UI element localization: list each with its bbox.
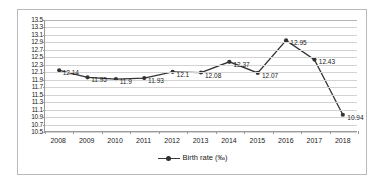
y-axis-tick-labels: 13.513.313.112.912.712.512.312.111.911.7… xyxy=(18,20,44,132)
y-axis-tick-mark xyxy=(43,87,45,88)
y-axis-tick-mark xyxy=(43,50,45,51)
plot-area: 12.1411.9511.911.9312.112.0812.3712.0712… xyxy=(44,20,357,132)
data-point-label: 12.07 xyxy=(262,71,278,78)
data-point-label: 11.9 xyxy=(120,78,132,85)
y-axis-tick-mark xyxy=(43,42,45,43)
gridline xyxy=(45,125,357,126)
y-axis-tick-mark xyxy=(43,110,45,111)
x-axis-tick-label: 2008 xyxy=(50,136,66,145)
x-axis-tick-mark xyxy=(102,131,103,134)
data-point-label: 10.94 xyxy=(347,113,363,120)
y-axis-tick-mark xyxy=(43,80,45,81)
gridline xyxy=(45,117,357,118)
y-axis-tick-mark xyxy=(43,27,45,28)
gridline xyxy=(45,65,357,66)
x-axis-tick-mark xyxy=(273,131,274,134)
legend-label-birth-rate: Birth rate (‰) xyxy=(182,154,227,162)
y-axis-tick-mark xyxy=(43,125,45,126)
chart-frame: 13.513.313.112.912.712.512.312.111.911.7… xyxy=(17,9,367,175)
x-axis-tick-mark xyxy=(330,131,331,134)
gridline xyxy=(45,35,357,36)
data-point-label: 12.43 xyxy=(319,58,335,65)
gridline xyxy=(45,20,357,21)
x-axis-tick-mark xyxy=(244,131,245,134)
y-axis-tick-mark xyxy=(43,65,45,66)
gridline xyxy=(45,132,357,133)
y-axis-tick-mark xyxy=(43,57,45,58)
x-axis-tick-mark xyxy=(159,131,160,134)
x-axis-tick-mark xyxy=(301,131,302,134)
data-point-label: 12.95 xyxy=(290,39,306,46)
gridline xyxy=(45,102,357,103)
gridline xyxy=(45,72,357,73)
x-axis-tick-labels: 2008200920102011201220132014201520162017… xyxy=(44,136,357,148)
chart-legend: Birth rate (‰) xyxy=(18,154,368,162)
x-axis-tick-mark xyxy=(187,131,188,134)
gridline xyxy=(45,87,357,88)
x-axis-tick-mark xyxy=(358,131,359,134)
x-axis-tick-mark xyxy=(130,131,131,134)
y-axis-tick-mark xyxy=(43,95,45,96)
data-point-label: 11.93 xyxy=(148,77,164,84)
gridline xyxy=(45,95,357,96)
y-axis-tick-mark xyxy=(43,102,45,103)
data-point-label: 12.08 xyxy=(205,71,221,78)
y-axis-tick-mark xyxy=(43,20,45,21)
data-point-label: 12.1 xyxy=(177,70,190,77)
x-axis-tick-mark xyxy=(216,131,217,134)
x-axis-tick-label: 2010 xyxy=(107,136,123,145)
x-axis-tick-label: 2013 xyxy=(193,136,209,145)
data-point-label: 12.37 xyxy=(233,60,249,67)
gridline xyxy=(45,42,357,43)
x-axis-tick-label: 2014 xyxy=(221,136,237,145)
y-axis-tick-mark xyxy=(43,117,45,118)
data-point-label: 12.14 xyxy=(63,69,79,76)
x-axis-tick-mark xyxy=(73,131,74,134)
x-axis-tick-mark xyxy=(45,131,46,134)
data-point-label: 11.95 xyxy=(91,76,107,83)
x-axis-tick-label: 2018 xyxy=(335,136,351,145)
chart-root: 13.513.313.112.912.712.512.312.111.911.7… xyxy=(0,0,375,185)
x-axis-tick-label: 2016 xyxy=(278,136,294,145)
x-axis-tick-label: 2011 xyxy=(136,136,151,145)
x-axis-tick-label: 2012 xyxy=(164,136,180,145)
series-data-point xyxy=(227,60,231,64)
x-axis-tick-label: 2017 xyxy=(307,136,323,145)
x-axis-tick-label: 2009 xyxy=(79,136,95,145)
legend-marker-icon xyxy=(158,154,180,162)
y-axis-tick-label: 10.5 xyxy=(31,129,43,136)
y-axis-tick-mark xyxy=(43,35,45,36)
gridline xyxy=(45,50,357,51)
gridline xyxy=(45,110,357,111)
gridline xyxy=(45,27,357,28)
x-axis-tick-label: 2015 xyxy=(250,136,266,145)
gridline xyxy=(45,57,357,58)
y-axis-tick-mark xyxy=(43,72,45,73)
